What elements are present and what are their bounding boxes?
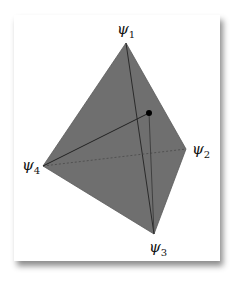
interior-point [146,110,152,116]
vertex-label-psi3: ψ3 [149,240,167,258]
vertex-label-psi2: ψ2 [192,142,210,160]
vertex-label-psi4: ψ4 [22,158,40,176]
vertex-label-psi1: ψ1 [117,22,135,40]
tetrahedron-face [43,43,186,234]
